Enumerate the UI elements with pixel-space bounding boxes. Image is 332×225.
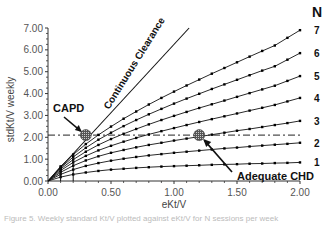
data-point — [148, 113, 150, 115]
data-point — [261, 50, 263, 52]
data-point — [198, 164, 200, 166]
data-point — [261, 69, 263, 71]
data-point — [160, 130, 162, 132]
data-point — [160, 97, 162, 99]
y-tick-label: 5.00 — [24, 66, 44, 77]
data-point — [110, 131, 112, 133]
data-point — [248, 74, 250, 76]
y-tick-label: 3.00 — [24, 110, 44, 121]
data-point — [198, 149, 200, 151]
legend-title: N — [312, 4, 322, 20]
data-point — [148, 103, 150, 105]
data-point — [97, 155, 99, 157]
x-axis-title: eKt/V — [162, 199, 187, 210]
data-point — [185, 97, 187, 99]
capd-label: CAPD — [53, 102, 84, 114]
data-point — [274, 85, 276, 87]
data-point — [236, 130, 238, 132]
data-point — [299, 29, 301, 31]
x-tick-label: 0.00 — [38, 187, 58, 198]
data-point — [248, 163, 250, 165]
data-point — [185, 165, 187, 167]
data-point — [97, 149, 99, 151]
legend-label-5: 5 — [314, 71, 320, 82]
data-point — [110, 159, 112, 161]
data-point — [248, 145, 250, 147]
data-point — [299, 142, 301, 144]
data-point — [173, 115, 175, 117]
data-point — [211, 118, 213, 120]
data-point — [148, 144, 150, 146]
y-tick-label: 0.00 — [24, 176, 44, 187]
data-point — [248, 92, 250, 94]
data-point — [85, 151, 87, 153]
adequate-chd-label: Adequate CHD — [237, 170, 314, 182]
data-point — [97, 138, 99, 140]
data-point — [185, 137, 187, 139]
data-point — [299, 120, 301, 122]
data-point — [173, 152, 175, 154]
data-point — [160, 165, 162, 167]
data-point — [299, 97, 301, 99]
data-point — [148, 123, 150, 125]
data-point — [85, 165, 87, 167]
data-point — [286, 80, 288, 82]
data-point — [248, 128, 250, 130]
legend-label-2: 2 — [314, 138, 320, 149]
data-point — [160, 119, 162, 121]
data-point — [236, 146, 238, 148]
data-point — [97, 134, 99, 136]
data-point — [135, 137, 137, 139]
data-point — [211, 88, 213, 90]
data-point — [148, 133, 150, 135]
data-point — [173, 102, 175, 104]
data-point — [274, 162, 276, 164]
data-point — [85, 171, 87, 173]
data-point — [185, 111, 187, 113]
data-point — [198, 107, 200, 109]
data-point — [236, 79, 238, 81]
data-point — [85, 155, 87, 157]
series-group: 1234567 — [48, 25, 320, 181]
data-point — [148, 166, 150, 168]
x-tick-label: 1.00 — [164, 187, 184, 198]
data-point — [185, 84, 187, 86]
data-point — [148, 154, 150, 156]
data-point — [198, 121, 200, 123]
x-tick-label: 2.00 — [290, 187, 310, 198]
capd-marker — [80, 130, 91, 141]
data-point — [85, 143, 87, 145]
data-point — [97, 170, 99, 172]
data-point — [223, 131, 225, 133]
data-point — [198, 78, 200, 80]
data-point — [211, 72, 213, 74]
data-point — [299, 52, 301, 54]
legend-label-1: 1 — [314, 157, 320, 168]
data-point — [110, 168, 112, 170]
adequate-chd-marker — [194, 130, 205, 141]
data-point — [248, 109, 250, 111]
data-point — [122, 125, 124, 127]
data-point — [173, 165, 175, 167]
figure-caption: Figure 5. Weekly standard Kt/V plotted a… — [4, 214, 278, 223]
data-point — [185, 124, 187, 126]
y-tick-label: 7.00 — [24, 23, 44, 34]
legend-label-4: 4 — [314, 93, 320, 104]
data-point — [135, 167, 137, 169]
data-point — [122, 140, 124, 142]
data-point — [97, 144, 99, 146]
data-point — [261, 144, 263, 146]
data-point — [160, 142, 162, 144]
data-point — [248, 55, 250, 57]
data-point — [286, 37, 288, 39]
data-point — [223, 67, 225, 69]
data-point — [160, 108, 162, 110]
data-point — [211, 103, 213, 105]
data-point — [274, 144, 276, 146]
x-tick-label: 0.50 — [101, 187, 121, 198]
y-tick-label: 6.00 — [24, 44, 44, 55]
data-point — [160, 153, 162, 155]
data-point — [236, 96, 238, 98]
y-tick-label: 4.00 — [24, 88, 44, 99]
data-point — [286, 122, 288, 124]
